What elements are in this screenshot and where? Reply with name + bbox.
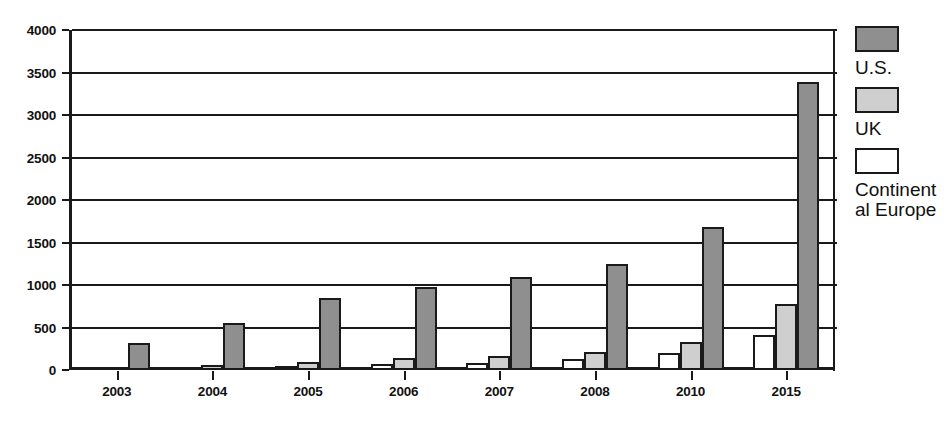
bar-us-2007	[510, 277, 532, 371]
legend-swatch-uk	[855, 87, 899, 113]
bar-group	[260, 30, 356, 370]
x-axis-tick-label: 2005	[293, 384, 322, 399]
bar-ce-2008	[562, 359, 584, 370]
bar-uk-2004	[201, 365, 223, 370]
y-axis-tick-mark	[62, 29, 69, 31]
bar-ce-2007	[466, 363, 488, 370]
y-axis-tick-mark	[62, 242, 69, 244]
bar-uk-2005	[297, 362, 319, 370]
y-axis-tick-label: 0	[49, 363, 56, 378]
x-axis-tick-label: 2015	[772, 384, 801, 399]
bar-group	[738, 30, 834, 370]
x-axis-tick-mark	[117, 371, 119, 380]
bar-ce-2010	[658, 353, 680, 370]
chart-legend: U.S.UKContinental Europe	[855, 26, 943, 230]
bars-layer	[69, 30, 834, 370]
bar-ce-2015	[753, 335, 775, 370]
y-axis-tick-mark	[62, 369, 69, 371]
y-axis-tick-mark	[62, 114, 69, 116]
bar-uk-2006	[393, 358, 415, 370]
legend-entry-ce[interactable]: Continental Europe	[855, 148, 943, 220]
y-axis-tick-mark	[62, 327, 69, 329]
y-axis-tick-label: 2000	[27, 193, 56, 208]
bar-uk-2010	[680, 342, 702, 370]
bar-group	[643, 30, 739, 370]
x-axis-tick-mark	[595, 371, 597, 380]
bar-group	[452, 30, 548, 370]
x-axis-tick-mark	[499, 371, 501, 380]
y-axis-tick-mark	[62, 199, 69, 201]
x-axis-tick-mark	[308, 371, 310, 380]
x-axis-tick-mark	[691, 371, 693, 380]
y-axis-tick-label: 500	[34, 320, 56, 335]
y-axis: 05001000150020002500300035004000	[0, 30, 62, 370]
bar-us-2008	[606, 264, 628, 370]
bar-group	[165, 30, 261, 370]
y-axis-tick-label: 3500	[27, 65, 56, 80]
x-axis-tick-mark	[212, 371, 214, 380]
x-axis-tick-label: 2010	[676, 384, 705, 399]
bar-uk-2015	[775, 304, 797, 370]
bar-uk-2007	[488, 356, 510, 370]
bar-ce-2006	[371, 364, 393, 370]
legend-label-uk: UK	[855, 119, 943, 139]
grouped-bar-chart: 05001000150020002500300035004000 2003200…	[0, 0, 947, 424]
bar-us-2015	[797, 82, 819, 370]
y-axis-tick-label: 4000	[27, 23, 56, 38]
x-axis-tick-mark	[786, 371, 788, 380]
bar-us-2005	[319, 298, 341, 370]
y-axis-tick-label: 1000	[27, 278, 56, 293]
bar-us-2006	[415, 287, 437, 370]
bar-group	[356, 30, 452, 370]
bar-us-2010	[702, 227, 724, 370]
x-axis-tick-label: 2007	[485, 384, 514, 399]
bar-ce-2005	[275, 366, 297, 370]
y-axis-tick-mark	[62, 157, 69, 159]
x-axis-tick-label: 2004	[198, 384, 227, 399]
x-axis-tick-label: 2006	[389, 384, 418, 399]
y-axis-tick-mark	[62, 284, 69, 286]
y-axis-tick-label: 1500	[27, 235, 56, 250]
x-axis: 20032004200520062007200820102015	[69, 384, 834, 406]
bar-group	[69, 30, 165, 370]
x-axis-tick-mark	[404, 371, 406, 380]
y-axis-tick-label: 3000	[27, 108, 56, 123]
legend-entry-uk[interactable]: UK	[855, 87, 943, 139]
legend-swatch-ce	[855, 148, 899, 174]
bar-uk-2008	[584, 352, 606, 370]
y-axis-tick-mark	[62, 72, 69, 74]
y-axis-tick-label: 2500	[27, 150, 56, 165]
legend-label-ce: Continental Europe	[855, 180, 943, 220]
plot-wrapper: 05001000150020002500300035004000 2003200…	[0, 0, 840, 424]
x-axis-ticks	[69, 371, 834, 380]
legend-label-us: U.S.	[855, 58, 943, 78]
bar-us-2003	[128, 343, 150, 370]
x-axis-tick-label: 2003	[102, 384, 131, 399]
legend-swatch-us	[855, 26, 899, 52]
legend-entry-us[interactable]: U.S.	[855, 26, 943, 78]
bar-group	[547, 30, 643, 370]
x-axis-tick-label: 2008	[580, 384, 609, 399]
bar-ce-2004	[179, 369, 201, 370]
bar-us-2004	[223, 323, 245, 370]
